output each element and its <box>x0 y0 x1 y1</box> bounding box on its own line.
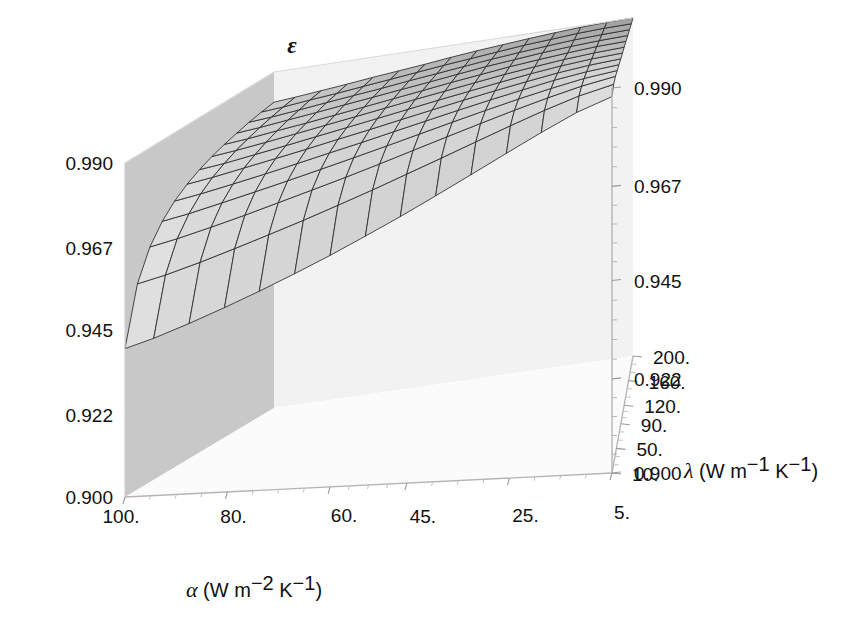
epsilon-axis-title: ε <box>287 33 297 58</box>
lambda-unit-close: ) <box>811 460 818 482</box>
surface-plot-figure: 0.9900.9670.9450.9220.900 0.9900.9670.94… <box>0 0 856 628</box>
epsilon-tick-label-left-4: 0.900 <box>65 487 113 508</box>
lambda-tick-label-5: 10. <box>632 464 658 485</box>
alpha-unit-close: ) <box>315 579 322 601</box>
plot-canvas: 0.9900.9670.9450.9220.900 0.9900.9670.94… <box>0 0 856 628</box>
alpha-unit-sup2: −1 <box>293 572 316 594</box>
alpha-tick-label-1: 80. <box>220 506 246 527</box>
lambda-tick-label-4: 50. <box>636 439 662 460</box>
alpha-unit-mid: K <box>274 579 294 601</box>
lambda-unit-sup2: −1 <box>789 453 812 475</box>
epsilon-tick-label-right-1: 0.967 <box>634 176 682 197</box>
lambda-symbol: λ <box>683 458 694 483</box>
epsilon-tick-label-right-2: 0.945 <box>634 271 682 292</box>
alpha-symbol: α <box>186 577 198 602</box>
lambda-unit-mid: K <box>770 460 790 482</box>
epsilon-tick-label-right-0: 0.990 <box>634 78 682 99</box>
alpha-tick-label-2: 60. <box>331 505 357 526</box>
lambda-tick-label-1: 160. <box>649 372 686 393</box>
alpha-tick-label-5: 5. <box>614 502 630 523</box>
lambda-unit-open: (W m <box>694 460 747 482</box>
lambda-tick-label-0: 200. <box>653 347 690 368</box>
epsilon-tick-label-left-3: 0.922 <box>65 405 113 426</box>
alpha-unit-sup1: −2 <box>251 572 274 594</box>
alpha-tick-label-3: 45. <box>410 506 436 527</box>
alpha-tick-label-0: 100. <box>103 506 140 527</box>
epsilon-tick-label-left-1: 0.967 <box>65 238 113 259</box>
alpha-unit-open: (W m <box>198 579 251 601</box>
epsilon-tick-label-left-0: 0.990 <box>65 153 113 174</box>
lambda-tick-label-3: 90. <box>641 415 667 436</box>
lambda-unit-sup1: −1 <box>747 453 770 475</box>
alpha-tick-label-4: 25. <box>512 505 538 526</box>
epsilon-tick-label-left-2: 0.945 <box>65 320 113 341</box>
